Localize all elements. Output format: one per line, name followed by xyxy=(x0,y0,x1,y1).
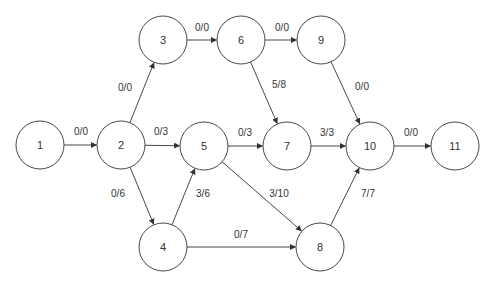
edge-label-6-7: 5/8 xyxy=(272,79,286,90)
edge-label-10-11: 0/0 xyxy=(404,127,418,138)
flow-network-diagram: 1234567891011 0/00/00/30/60/03/60/70/33/… xyxy=(0,0,495,286)
node-label: 4 xyxy=(160,241,166,253)
node-7: 7 xyxy=(263,122,311,170)
node-11: 11 xyxy=(431,122,479,170)
node-8: 8 xyxy=(296,223,344,271)
edge-label-9-10: 0/0 xyxy=(355,81,369,92)
edge-label-3-6: 0/0 xyxy=(195,22,209,33)
node-label: 9 xyxy=(318,34,324,46)
edge-label-2-3: 0/0 xyxy=(118,82,132,93)
node-4: 4 xyxy=(139,223,187,271)
node-6: 6 xyxy=(217,16,265,64)
edge-label-5-7: 0/3 xyxy=(238,127,252,138)
edge-label-4-5: 3/6 xyxy=(196,188,210,199)
edge-4-5 xyxy=(172,169,195,225)
node-label: 11 xyxy=(449,140,460,152)
edge-5-8 xyxy=(222,162,301,231)
node-label: 5 xyxy=(201,140,207,152)
node-10: 10 xyxy=(346,122,394,170)
edge-label-6-9: 0/0 xyxy=(275,22,289,33)
edge-label-8-10: 7/7 xyxy=(361,188,375,199)
edge-2-3 xyxy=(130,63,154,123)
node-label: 10 xyxy=(364,140,376,152)
node-label: 8 xyxy=(317,241,323,253)
edge-8-10 xyxy=(331,168,359,226)
edge-label-5-8: 3/10 xyxy=(269,188,289,199)
edge-9-10 xyxy=(331,62,360,124)
node-label: 3 xyxy=(160,34,166,46)
node-label: 2 xyxy=(118,139,124,151)
node-9: 9 xyxy=(297,16,345,64)
node-label: 1 xyxy=(37,139,43,151)
edge-label-1-2: 0/0 xyxy=(74,126,88,137)
edge-6-7 xyxy=(251,62,278,124)
node-2: 2 xyxy=(97,121,145,169)
edge-label-2-4: 0/6 xyxy=(111,188,125,199)
edge-label-7-10: 3/3 xyxy=(320,127,334,138)
edge-label-2-5: 0/3 xyxy=(154,126,168,137)
node-3: 3 xyxy=(139,16,187,64)
node-label: 6 xyxy=(238,34,244,46)
edge-label-4-8: 0/7 xyxy=(234,229,248,240)
node-5: 5 xyxy=(180,122,228,170)
node-1: 1 xyxy=(16,121,64,169)
node-label: 7 xyxy=(284,140,290,152)
diagram-svg: 1234567891011 0/00/00/30/60/03/60/70/33/… xyxy=(0,0,495,286)
edge-2-4 xyxy=(130,167,154,224)
